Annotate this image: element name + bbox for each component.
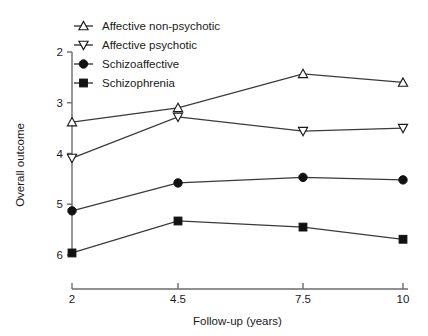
data-point-3-1	[68, 207, 76, 215]
data-point-3-2	[174, 179, 182, 187]
series-3	[68, 173, 407, 215]
y-tick-label: 2	[57, 46, 63, 58]
chart-figure: 23456Overall outcome24.57.510Follow-up (…	[0, 0, 428, 336]
x-axis-ticks: 24.57.510	[69, 283, 410, 305]
data-point-4-3	[299, 223, 307, 231]
series-4	[68, 217, 407, 257]
series-line	[72, 117, 403, 158]
legend-label-4: Schizophrenia	[102, 77, 175, 89]
legend-item-3: Schizoaffective	[74, 58, 179, 70]
data-point-4-2	[174, 217, 182, 225]
x-axis-title: Follow-up (years)	[193, 315, 282, 327]
legend-item-2: Affective psychotic	[74, 39, 197, 51]
series-line	[72, 221, 403, 253]
legend-label-2: Affective psychotic	[102, 39, 197, 51]
data-point-legend-4	[80, 79, 88, 87]
data-point-4-1	[68, 249, 76, 257]
legend-item-1: Affective non-psychotic	[74, 20, 220, 32]
legend: Affective non-psychoticAffective psychot…	[74, 20, 220, 89]
y-axis-title: Overall outcome	[14, 123, 26, 207]
data-point-4-4	[399, 235, 407, 243]
x-tick-label: 10	[397, 293, 410, 305]
data-point-3-4	[399, 176, 407, 184]
y-tick-label: 4	[57, 148, 64, 160]
series-line	[72, 177, 403, 210]
y-tick-label: 3	[57, 97, 63, 109]
legend-item-4: Schizophrenia	[74, 77, 175, 89]
x-tick-label: 2	[69, 293, 75, 305]
data-point-1-3	[298, 69, 307, 77]
y-tick-label: 5	[57, 198, 63, 210]
overall-outcome-line-chart: 23456Overall outcome24.57.510Follow-up (…	[0, 0, 428, 336]
x-tick-label: 4.5	[170, 293, 186, 305]
legend-label-3: Schizoaffective	[102, 58, 179, 70]
x-tick-label: 7.5	[295, 293, 311, 305]
series-2	[67, 113, 407, 162]
legend-label-1: Affective non-psychotic	[102, 20, 220, 32]
data-point-3-3	[299, 173, 307, 181]
data-point-2-1	[67, 154, 76, 162]
data-point-legend-3	[79, 60, 87, 68]
y-axis-ticks: 23456	[57, 46, 72, 261]
y-tick-label: 6	[57, 249, 63, 261]
